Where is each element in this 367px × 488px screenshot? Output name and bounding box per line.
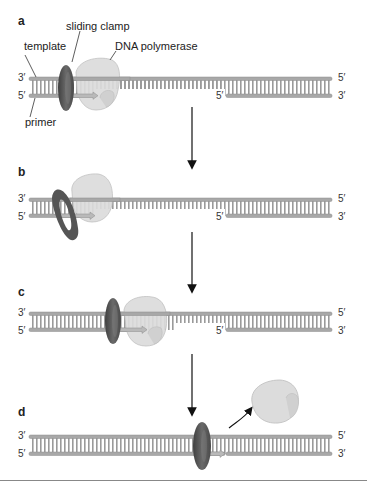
release-arrow	[229, 410, 250, 428]
end-label-a-top-right: 5′	[338, 72, 345, 83]
panel-label-c: c	[18, 285, 25, 299]
end-label-a-downstream: 5′	[216, 90, 223, 101]
downstream-strand	[226, 94, 332, 98]
downstream-strand	[226, 328, 332, 332]
end-label-d-top-left: 3′	[18, 430, 25, 441]
end-label-b-top-left: 3′	[18, 193, 25, 204]
panel-label-b: b	[18, 165, 25, 179]
dna-polymerase	[76, 58, 120, 110]
label-primer: primer	[25, 116, 56, 128]
end-label-d-top-right: 5′	[338, 430, 345, 441]
panel-d	[29, 380, 332, 470]
end-label-c-bottom-right: 3′	[338, 325, 345, 336]
downstream-strand	[226, 452, 332, 456]
end-label-b-bottom-left: 5′	[18, 211, 25, 222]
downstream-strand	[226, 214, 332, 218]
end-label-c-bottom-left: 5′	[18, 325, 25, 336]
panel-label-a: a	[18, 14, 25, 28]
panel-label-d: d	[18, 405, 25, 419]
label-template: template	[24, 40, 66, 52]
end-label-b-downstream: 5′	[216, 211, 223, 222]
end-label-a-bottom-left: 5′	[18, 90, 25, 101]
end-label-d-bottom-left: 5′	[18, 448, 25, 459]
panel-c	[29, 297, 332, 347]
end-label-a-top-left: 3′	[18, 72, 25, 83]
dna-replication-diagram	[0, 0, 367, 488]
end-label-a-bottom-right: 3′	[338, 90, 345, 101]
end-label-c-top-left: 3′	[18, 307, 25, 318]
end-label-c-top-right: 5′	[338, 307, 345, 318]
template-strand	[29, 312, 332, 316]
label-dna-polymerase: DNA polymerase	[115, 40, 198, 52]
end-label-d-bottom-right: 3′	[338, 448, 345, 459]
bottom-rule	[0, 480, 367, 481]
end-label-b-top-right: 5′	[338, 193, 345, 204]
end-label-b-bottom-right: 3′	[338, 211, 345, 222]
panel-b	[29, 174, 332, 240]
label-sliding-clamp: sliding clamp	[66, 20, 130, 32]
template-strand	[29, 435, 332, 439]
end-label-c-downstream: 5′	[216, 325, 223, 336]
